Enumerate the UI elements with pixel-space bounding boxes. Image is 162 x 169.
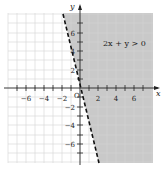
y-tick-label: 6 bbox=[71, 30, 76, 38]
x-tick-label: 6 bbox=[132, 95, 137, 103]
y-tick-label: −6 bbox=[65, 141, 76, 149]
y-tick-label: 4 bbox=[71, 48, 76, 56]
origin-label: O bbox=[74, 92, 80, 100]
x-tick-label: 4 bbox=[114, 95, 119, 103]
inequality-graph: −6 −4 −2 2 4 6 6 4 2 −2 −4 −6 O x y 2x +… bbox=[0, 0, 162, 169]
y-axis-arrow-icon bbox=[78, 4, 82, 10]
y-tick-label: −4 bbox=[65, 122, 76, 130]
x-tick-label: 2 bbox=[96, 95, 100, 103]
x-tick-label: −2 bbox=[57, 95, 67, 103]
inequality-label: 2x + y > 0 bbox=[103, 39, 146, 48]
x-axis-label: x bbox=[156, 89, 161, 98]
x-tick-label: −6 bbox=[21, 95, 32, 103]
y-axis-label: y bbox=[69, 2, 75, 11]
y-tick-label: −2 bbox=[65, 104, 75, 112]
y-tick-label: 2 bbox=[71, 67, 75, 75]
x-tick-label: −4 bbox=[39, 95, 50, 103]
